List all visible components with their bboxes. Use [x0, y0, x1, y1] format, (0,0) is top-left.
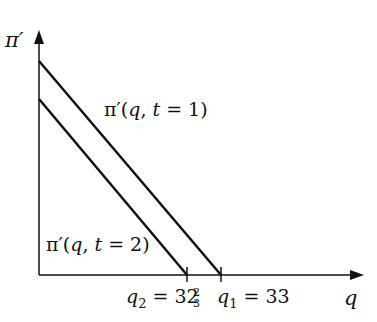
- y-axis-label: π′: [4, 28, 24, 52]
- q1-intercept-label: q1 = 33: [217, 285, 290, 311]
- y-axis-arrow-icon: [34, 30, 44, 44]
- marginal-profit-diagram: π′ q π′(q, t = 1) π′(q, t = 2) q2 = 32 2…: [0, 0, 377, 322]
- x-axis-arrow-icon: [350, 270, 364, 280]
- q2-intercept-label: q2 = 32: [126, 285, 199, 311]
- curve-t2-label: π′(q, t = 2): [46, 233, 150, 255]
- q2-frac-den: 3: [193, 297, 200, 310]
- curve-t1-label: π′(q, t = 1): [104, 98, 208, 120]
- x-axis-label: q: [344, 286, 357, 310]
